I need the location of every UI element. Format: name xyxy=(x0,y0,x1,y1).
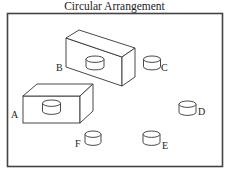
cylinder-c xyxy=(144,56,161,70)
label-f: F xyxy=(75,138,81,149)
label-e: E xyxy=(162,140,168,151)
label-b: B xyxy=(56,62,63,73)
label-c: C xyxy=(161,62,168,73)
label-a: A xyxy=(11,109,19,120)
cylinder-b xyxy=(86,56,104,70)
label-d: D xyxy=(198,106,205,117)
cylinder-d xyxy=(179,101,196,115)
cylinder-e xyxy=(143,131,160,145)
arrangement-diagram: B C A D F E xyxy=(0,0,229,173)
cylinder-a xyxy=(43,100,61,114)
cylinder-f xyxy=(85,131,101,145)
